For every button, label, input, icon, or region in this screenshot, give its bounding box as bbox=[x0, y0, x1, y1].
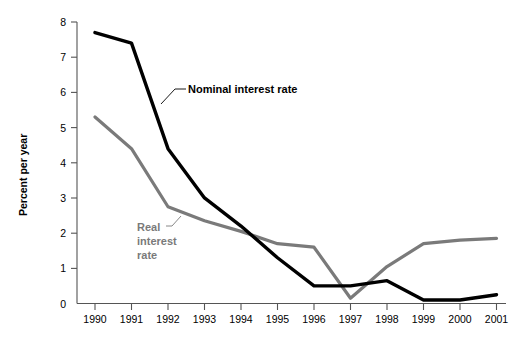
x-tick-label-1998: 1998 bbox=[375, 313, 399, 325]
y-tick-label-5: 5 bbox=[60, 122, 66, 134]
x-tick-label-1992: 1992 bbox=[156, 313, 180, 325]
x-tick-label-1994: 1994 bbox=[229, 313, 253, 325]
x-tick-label-2000: 2000 bbox=[448, 313, 472, 325]
y-tick-label-0: 0 bbox=[60, 298, 66, 310]
nominal-label-leader-line bbox=[161, 89, 186, 104]
y-tick-label-1: 1 bbox=[60, 262, 66, 274]
y-axis-ticks bbox=[71, 22, 77, 268]
real-series-label-line1: Real bbox=[137, 221, 160, 233]
x-axis-ticks bbox=[95, 304, 497, 311]
x-tick-label-1993: 1993 bbox=[193, 313, 217, 325]
real-series-label-line2: interest bbox=[137, 235, 177, 247]
x-axis-tick-labels: 1990 1991 1992 1993 1994 1995 1996 1997 … bbox=[83, 313, 508, 325]
x-tick-label-1999: 1999 bbox=[412, 313, 436, 325]
y-axis-title: Percent per year bbox=[17, 134, 29, 216]
x-tick-label-1990: 1990 bbox=[83, 313, 107, 325]
x-tick-label-1996: 1996 bbox=[302, 313, 326, 325]
line-chart: 8 7 6 5 4 3 2 1 0 Percent per year bbox=[0, 0, 523, 341]
y-tick-label-3: 3 bbox=[60, 192, 66, 204]
y-tick-label-6: 6 bbox=[60, 86, 66, 98]
y-tick-label-7: 7 bbox=[60, 51, 66, 63]
x-tick-label-1995: 1995 bbox=[266, 313, 290, 325]
y-tick-label-4: 4 bbox=[60, 157, 66, 169]
x-tick-label-2001: 2001 bbox=[485, 313, 509, 325]
x-tick-label-1997: 1997 bbox=[339, 313, 363, 325]
chart-container: 8 7 6 5 4 3 2 1 0 Percent per year bbox=[0, 0, 523, 341]
y-tick-label-2: 2 bbox=[60, 227, 66, 239]
y-tick-label-8: 8 bbox=[60, 16, 66, 28]
x-tick-label-1991: 1991 bbox=[120, 313, 144, 325]
real-series-label-line3: rate bbox=[137, 249, 157, 261]
y-axis-tick-labels: 8 7 6 5 4 3 2 1 0 bbox=[60, 16, 66, 310]
nominal-series-label: Nominal interest rate bbox=[188, 83, 297, 95]
real-label-leader-line bbox=[166, 216, 181, 226]
